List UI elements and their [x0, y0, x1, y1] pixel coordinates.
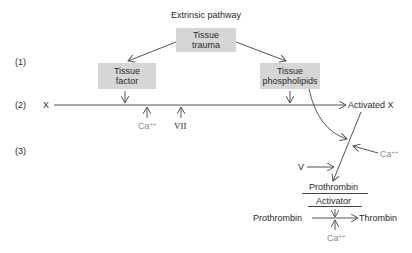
- ca-superscript: ++: [392, 149, 399, 155]
- step-label-3: (3): [15, 146, 26, 156]
- box-line: Tissue: [98, 66, 156, 76]
- factor-x-label: X: [43, 100, 49, 110]
- ca-text: Ca: [327, 233, 339, 243]
- activated-x-label: Activated X: [348, 100, 394, 110]
- ca-superscript: ++: [339, 233, 346, 239]
- tissue-phospholipids-box: Tissue phospholipids: [260, 63, 320, 89]
- prothrombin-label: Prothrombin: [253, 213, 302, 223]
- calcium-label-1: Ca++: [138, 121, 157, 131]
- factor-vii-label: VII: [174, 121, 187, 131]
- step-label-2: (2): [15, 100, 26, 110]
- tissue-factor-box: Tissue factor: [98, 63, 156, 89]
- prothrombin-activator-line1: Prothrombin: [309, 182, 358, 192]
- ca-text: Ca: [380, 149, 392, 159]
- ca-superscript: ++: [150, 121, 157, 127]
- tissue-trauma-box: Tissue trauma: [176, 28, 236, 52]
- pathway-title: Extrinsic pathway: [171, 10, 241, 20]
- factor-v-label: V: [298, 162, 304, 172]
- activator-rule-bottom: [308, 206, 362, 207]
- thrombin-label: Thrombin: [359, 213, 397, 223]
- calcium-label-2: Ca++: [380, 149, 399, 159]
- box-line: Tissue: [176, 30, 236, 40]
- prothrombin-activator-line2: Activator: [316, 196, 351, 206]
- activator-rule-top: [302, 193, 368, 194]
- box-line: phospholipids: [260, 76, 320, 86]
- box-line: factor: [98, 76, 156, 86]
- step-label-1: (1): [15, 57, 26, 67]
- calcium-label-3: Ca++: [327, 233, 346, 243]
- box-line: trauma: [176, 40, 236, 50]
- box-line: Tissue: [260, 66, 320, 76]
- ca-text: Ca: [138, 121, 150, 131]
